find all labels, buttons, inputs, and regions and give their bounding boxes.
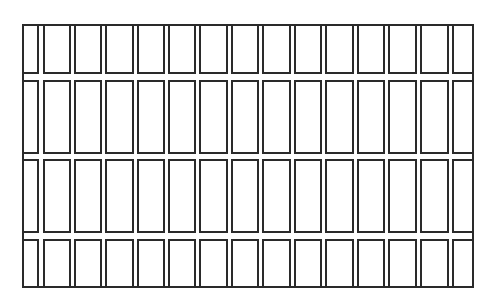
grid-cell xyxy=(74,24,102,74)
grid-cell xyxy=(105,80,134,154)
grid-cell xyxy=(22,159,39,233)
grid-cell xyxy=(43,159,71,233)
grid-cell xyxy=(168,159,196,233)
grid-cell xyxy=(294,80,322,154)
grid-cell xyxy=(262,24,291,74)
panel-grid-diagram xyxy=(0,0,493,303)
grid-cell xyxy=(325,80,354,154)
grid-cell xyxy=(325,239,354,288)
grid-cell xyxy=(231,24,259,74)
grid-cell xyxy=(452,80,474,154)
grid-cell xyxy=(22,80,39,154)
grid-cell xyxy=(357,80,385,154)
grid-cell xyxy=(74,159,102,233)
grid-cell xyxy=(388,159,417,233)
grid-cell xyxy=(199,239,228,288)
grid-cell xyxy=(388,24,417,74)
grid-cell xyxy=(262,159,291,233)
grid-cell xyxy=(420,24,449,74)
grid-cell xyxy=(294,239,322,288)
grid-cell xyxy=(22,24,39,74)
grid-cell xyxy=(325,159,354,233)
grid-cell xyxy=(262,80,291,154)
grid-cell xyxy=(168,239,196,288)
grid-cell xyxy=(294,159,322,233)
grid-cell xyxy=(199,24,228,74)
grid-cell xyxy=(357,24,385,74)
grid-cell xyxy=(105,159,134,233)
grid-cell xyxy=(137,159,165,233)
grid-cell xyxy=(388,239,417,288)
grid-cell xyxy=(168,80,196,154)
grid-cell xyxy=(357,159,385,233)
grid-cell xyxy=(452,159,474,233)
grid-cell xyxy=(43,80,71,154)
grid-cell xyxy=(199,159,228,233)
grid-cell xyxy=(137,24,165,74)
grid-cell xyxy=(452,24,474,74)
grid-cell xyxy=(325,24,354,74)
grid-cell xyxy=(137,80,165,154)
grid-cell xyxy=(420,239,449,288)
grid-cell xyxy=(231,239,259,288)
grid-cell xyxy=(105,239,134,288)
grid-cell xyxy=(262,239,291,288)
grid-cell xyxy=(231,80,259,154)
grid-cell xyxy=(74,239,102,288)
grid-cell xyxy=(231,159,259,233)
grid-cell xyxy=(105,24,134,74)
grid-cell xyxy=(74,80,102,154)
grid-cell xyxy=(43,239,71,288)
grid-cell xyxy=(452,239,474,288)
grid-cell xyxy=(199,80,228,154)
grid-cell xyxy=(420,159,449,233)
grid-cell xyxy=(420,80,449,154)
grid-cell xyxy=(357,239,385,288)
grid-cell xyxy=(388,80,417,154)
grid-cell xyxy=(43,24,71,74)
grid-cell xyxy=(294,24,322,74)
grid-cell xyxy=(22,239,39,288)
grid-cell xyxy=(168,24,196,74)
grid-cell xyxy=(137,239,165,288)
